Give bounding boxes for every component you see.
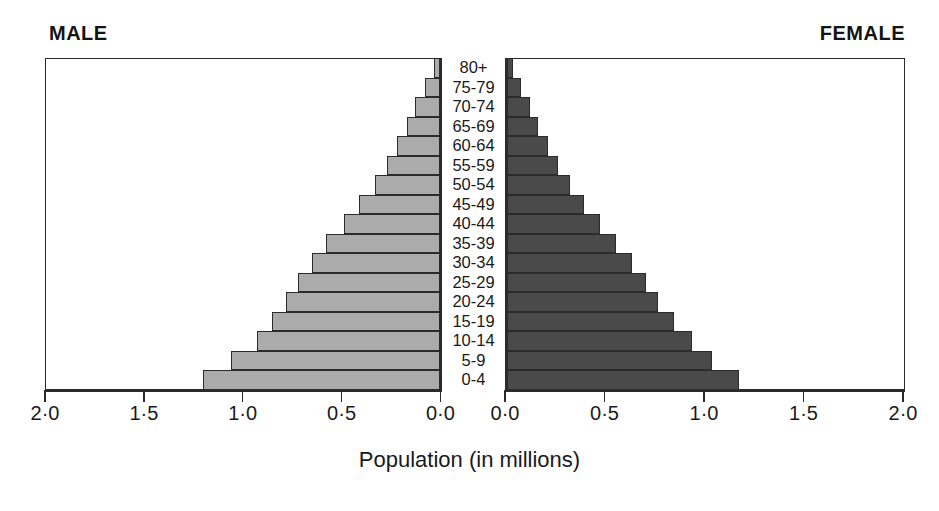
bar-row <box>507 312 905 332</box>
bar-female-15-19 <box>507 312 674 332</box>
age-label-15-19: 15-19 <box>442 312 505 332</box>
bar-row <box>507 331 905 351</box>
bar-row <box>45 253 440 273</box>
bar-row <box>507 117 905 137</box>
age-label-5-9: 5-9 <box>442 351 505 371</box>
female-heading: FEMALE <box>820 22 905 45</box>
bar-female-75-79 <box>507 78 521 98</box>
bar-row <box>507 58 905 78</box>
female-tick-0-mark <box>504 390 506 402</box>
age-label-35-39: 35-39 <box>442 234 505 254</box>
female-tick-4-label: 2·0 <box>889 402 918 425</box>
male-tick-3-label: 0·5 <box>327 402 356 425</box>
bar-row <box>45 292 440 312</box>
bar-female-55-59 <box>507 156 559 176</box>
bar-row <box>45 175 440 195</box>
male-tick-0-mark <box>44 390 46 402</box>
population-pyramid-figure: MALE FEMALE 0-45-910-1415-1920-2425-2930… <box>0 0 939 511</box>
bar-male-80+ <box>434 58 440 78</box>
bar-female-50-54 <box>507 175 571 195</box>
bar-female-80+ <box>507 58 513 78</box>
bar-row <box>45 331 440 351</box>
age-label-10-14: 10-14 <box>442 331 505 351</box>
bar-row <box>45 58 440 78</box>
male-heading: MALE <box>49 22 108 45</box>
bar-row <box>507 156 905 176</box>
bar-row <box>507 195 905 215</box>
bar-row <box>45 195 440 215</box>
bar-male-70-74 <box>415 97 441 117</box>
age-label-70-74: 70-74 <box>442 97 505 117</box>
male-tick-2-mark <box>242 390 244 402</box>
bar-row <box>45 78 440 98</box>
age-label-65-69: 65-69 <box>442 117 505 137</box>
bar-male-35-39 <box>326 234 441 254</box>
bar-female-65-69 <box>507 117 539 137</box>
female-tick-1-label: 0·5 <box>590 402 619 425</box>
bar-row <box>45 351 440 371</box>
bar-row <box>507 351 905 371</box>
bar-row <box>45 214 440 234</box>
bar-row <box>45 136 440 156</box>
bar-row <box>507 97 905 117</box>
female-tick-3-mark <box>803 390 805 402</box>
female-tick-2-mark <box>703 390 705 402</box>
male-tick-3-mark <box>341 390 343 402</box>
bar-row <box>507 78 905 98</box>
age-label-25-29: 25-29 <box>442 273 505 293</box>
bar-row <box>507 175 905 195</box>
age-label-75-79: 75-79 <box>442 78 505 98</box>
bar-row <box>45 273 440 293</box>
bar-row <box>507 234 905 254</box>
bar-row <box>507 136 905 156</box>
male-x-axis-line <box>45 390 442 392</box>
female-tick-0-label: 0·0 <box>491 402 520 425</box>
bar-row <box>507 214 905 234</box>
bar-female-0-4 <box>507 370 740 390</box>
male-tick-0-label: 2·0 <box>31 402 60 425</box>
male-tick-4-mark <box>440 390 442 402</box>
age-group-labels: 0-45-910-1415-1920-2425-2930-3435-3940-4… <box>442 58 505 390</box>
bar-female-40-44 <box>507 214 601 234</box>
male-tick-1-label: 1·5 <box>129 402 158 425</box>
bar-male-5-9 <box>231 351 441 371</box>
bar-male-15-19 <box>272 312 440 332</box>
age-label-30-34: 30-34 <box>442 253 505 273</box>
bar-male-25-29 <box>298 273 440 293</box>
bar-row <box>45 117 440 137</box>
bar-male-55-59 <box>387 156 440 176</box>
bar-male-40-44 <box>344 214 441 234</box>
age-label-60-64: 60-64 <box>442 136 505 156</box>
male-tick-1-mark <box>143 390 145 402</box>
age-label-20-24: 20-24 <box>442 292 505 312</box>
age-label-0-4: 0-4 <box>442 370 505 390</box>
age-label-45-49: 45-49 <box>442 195 505 215</box>
bar-female-35-39 <box>507 234 616 254</box>
bar-male-45-49 <box>359 195 440 215</box>
bar-female-30-34 <box>507 253 632 273</box>
age-label-50-54: 50-54 <box>442 175 505 195</box>
bar-female-45-49 <box>507 195 585 215</box>
bar-row <box>45 156 440 176</box>
age-label-55-59: 55-59 <box>442 156 505 176</box>
bar-row <box>45 234 440 254</box>
age-label-40-44: 40-44 <box>442 214 505 234</box>
bar-male-60-64 <box>397 136 440 156</box>
bar-male-10-14 <box>257 331 441 351</box>
female-tick-4-mark <box>902 390 904 402</box>
bar-female-10-14 <box>507 331 692 351</box>
male-bar-group <box>45 58 440 390</box>
bar-row <box>45 370 440 390</box>
bar-male-0-4 <box>203 370 440 390</box>
female-tick-2-label: 1·0 <box>690 402 719 425</box>
male-tick-4-label: 0·0 <box>426 402 455 425</box>
bar-male-75-79 <box>425 78 441 98</box>
bar-male-50-54 <box>375 175 440 195</box>
female-bar-group <box>507 58 905 390</box>
bar-female-25-29 <box>507 273 646 293</box>
bar-row <box>507 253 905 273</box>
bar-row <box>507 370 905 390</box>
bar-row <box>507 292 905 312</box>
female-tick-3-label: 1·5 <box>789 402 818 425</box>
male-tick-2-label: 1·0 <box>228 402 257 425</box>
